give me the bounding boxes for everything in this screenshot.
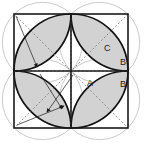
label-B: B <box>120 57 126 67</box>
geometry-figure: CBAB' <box>0 0 144 150</box>
geometry-svg: CBAB' <box>0 0 144 150</box>
label-C: C <box>104 43 111 53</box>
label-A: A <box>87 78 93 88</box>
label-Bp: B' <box>120 79 128 89</box>
